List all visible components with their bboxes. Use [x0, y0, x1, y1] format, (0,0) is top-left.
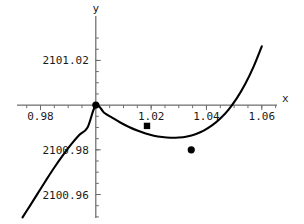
x-axis-tick-labels: 0.98 1.02 1.04 1.06 [27, 110, 275, 123]
plot-canvas: 0.98 1.02 1.04 1.06 2101.02 2100.98 2100… [0, 0, 304, 224]
y-axis-tick-labels: 2101.02 2100.98 2100.96 [42, 54, 88, 201]
x-tick-label-3: 1.06 [249, 110, 276, 123]
y-tick-label-2: 2100.96 [42, 189, 88, 202]
y-tick-label-0: 2101.02 [42, 54, 88, 67]
data-point-2 [188, 146, 195, 153]
x-axis-label: x [282, 92, 289, 105]
data-point-1 [144, 123, 150, 129]
x-tick-label-1: 1.02 [138, 110, 165, 123]
y-axis-label: y [93, 2, 100, 15]
data-point-0 [92, 102, 99, 109]
x-tick-label-0: 0.98 [27, 110, 54, 123]
plot-figure: 0.98 1.02 1.04 1.06 2101.02 2100.98 2100… [0, 0, 304, 224]
